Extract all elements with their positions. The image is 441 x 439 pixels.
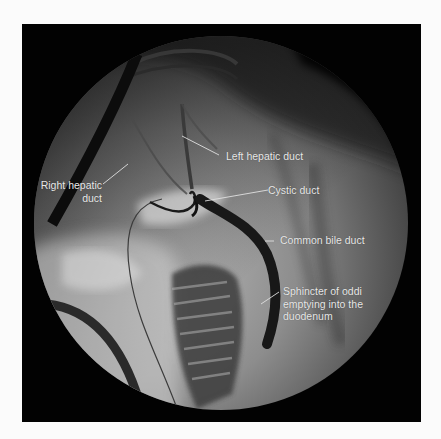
fluoroscopy-image-frame: Left hepatic duct Right hepatic duct Cys… bbox=[22, 24, 421, 422]
label-right-hepatic-duct: Right hepatic duct bbox=[39, 179, 102, 204]
label-sphincter-of-oddi: Sphincter of oddi emptying into the duod… bbox=[283, 285, 363, 323]
label-left-hepatic-duct: Left hepatic duct bbox=[226, 150, 303, 163]
label-common-bile-duct: Common bile duct bbox=[280, 234, 365, 247]
cholangiogram-image bbox=[22, 24, 421, 422]
label-cystic-duct: Cystic duct bbox=[268, 184, 319, 197]
